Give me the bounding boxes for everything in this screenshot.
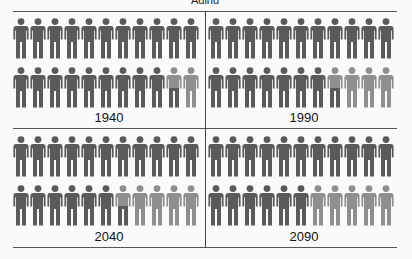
figure-row-bottom [208, 67, 394, 108]
panel-label: 1990 [208, 110, 400, 125]
figure-row-bottom [13, 185, 199, 226]
person-icon [242, 67, 258, 108]
person-icon [378, 185, 394, 226]
person-icon [98, 67, 114, 108]
person-icon [327, 136, 343, 177]
person-icon [30, 136, 46, 177]
figure-row-bottom [208, 185, 394, 226]
person-icon [132, 67, 148, 108]
person-icon [344, 67, 360, 108]
person-icon [310, 136, 326, 177]
panel-label: 2040 [13, 229, 205, 244]
person-icon [344, 18, 360, 59]
vertical-divider [205, 11, 206, 247]
person-icon [208, 67, 224, 108]
panel-label: 1940 [13, 110, 205, 125]
person-icon [149, 185, 165, 226]
person-icon [81, 185, 97, 226]
figure-row-top [13, 136, 199, 177]
person-icon [13, 18, 29, 59]
bottom-border [13, 247, 397, 248]
person-icon [183, 67, 199, 108]
panel-2040: 2040 [13, 129, 205, 246]
person-icon [64, 185, 80, 226]
person-icon [344, 136, 360, 177]
figure-row-top [208, 136, 394, 177]
person-icon [344, 185, 360, 226]
person-icon [361, 185, 377, 226]
person-icon [225, 18, 241, 59]
person-icon [293, 67, 309, 108]
person-icon [149, 136, 165, 177]
person-icon [327, 18, 343, 59]
person-icon [310, 185, 326, 226]
person-icon [132, 136, 148, 177]
person-icon [242, 185, 258, 226]
person-icon [81, 18, 97, 59]
person-icon [47, 18, 63, 59]
panel-1940: 1940 [13, 12, 205, 129]
person-icon [361, 67, 377, 108]
figure-row-top [13, 18, 199, 59]
person-icon [208, 185, 224, 226]
person-icon [242, 18, 258, 59]
person-icon [166, 185, 182, 226]
person-icon [361, 18, 377, 59]
person-icon [115, 185, 131, 226]
person-icon [361, 136, 377, 177]
person-icon [81, 67, 97, 108]
person-icon [276, 67, 292, 108]
person-icon [30, 67, 46, 108]
person-icon [166, 67, 182, 108]
person-icon [293, 185, 309, 226]
person-icon [98, 136, 114, 177]
person-icon [47, 67, 63, 108]
person-icon [149, 67, 165, 108]
person-icon [183, 136, 199, 177]
person-icon [132, 18, 148, 59]
panel-2090: 2090 [208, 129, 400, 246]
person-icon [64, 18, 80, 59]
person-icon [208, 18, 224, 59]
person-icon [276, 185, 292, 226]
person-icon [64, 67, 80, 108]
person-icon [293, 18, 309, 59]
person-icon [208, 136, 224, 177]
person-icon [276, 136, 292, 177]
person-icon [225, 136, 241, 177]
person-icon [166, 18, 182, 59]
person-icon [183, 18, 199, 59]
panel-1990: 1990 [208, 12, 400, 129]
person-icon [310, 18, 326, 59]
person-icon [276, 18, 292, 59]
person-icon [378, 18, 394, 59]
person-icon [327, 67, 343, 108]
person-icon [115, 18, 131, 59]
chart-title: Aging population [170, 0, 240, 4]
person-icon [259, 136, 275, 177]
person-icon [132, 185, 148, 226]
person-icon [47, 136, 63, 177]
person-icon [30, 185, 46, 226]
person-icon [98, 18, 114, 59]
person-icon [81, 136, 97, 177]
person-icon [149, 18, 165, 59]
person-icon [310, 67, 326, 108]
person-icon [64, 136, 80, 177]
person-icon [166, 136, 182, 177]
figure-row-top [208, 18, 394, 59]
person-icon [378, 136, 394, 177]
person-icon [242, 136, 258, 177]
figure-row-bottom [13, 67, 199, 108]
person-icon [115, 67, 131, 108]
person-icon [259, 67, 275, 108]
person-icon [13, 67, 29, 108]
person-icon [259, 18, 275, 59]
person-icon [98, 185, 114, 226]
person-icon [183, 185, 199, 226]
person-icon [13, 136, 29, 177]
person-icon [225, 67, 241, 108]
person-icon [293, 136, 309, 177]
person-icon [225, 185, 241, 226]
panel-label: 2090 [208, 229, 400, 244]
